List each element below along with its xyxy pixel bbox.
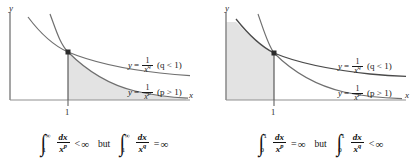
dx-denominator: xp [59,143,67,154]
dx-numerator: dx [353,133,362,142]
curve-label-q-left: y = 1 xq (q < 1) [128,57,182,74]
figure-container: y x 1 y = 1 xq (q < 1) y = 1 xp (p > 1) [0,0,420,163]
curve-label-q-eq-right: = [344,62,349,71]
curve-label-q-condition-right: (q < 1) [367,62,392,71]
integral-right-first: ∫ 1 0 [258,133,268,154]
dx-exponent: p [64,142,67,149]
integral-upper-limit: ∞ [46,133,51,140]
intersection-marker-left [66,50,71,55]
equation-row: ∫ ∞ 1 dx xp < ∞ but ∫ ∞ 1 [0,124,420,163]
dx-fraction-left-first: dx xp [57,133,70,154]
infinity-right-first: ∞ [298,138,306,150]
relation-left-first: < [75,138,81,149]
dx-fraction-right-first: dx xp [273,133,286,154]
dx-fraction-left-second: dx xq [136,133,149,154]
equation-left: ∫ ∞ 1 dx xp < ∞ but ∫ ∞ 1 [40,124,168,163]
integral-left-second: ∫ ∞ 1 [119,133,131,154]
equation-right: ∫ 1 0 dx xp = ∞ but ∫ 1 0 [258,124,383,163]
curve-label-q-condition-left: (q < 1) [157,61,182,70]
curve-label-p-fraction-right: 1 xp [352,85,363,102]
curve-label-p-eq-left: = [134,88,139,97]
curve-label-p-denominator-left: xp [143,93,152,101]
dx-numerator: dx [138,133,147,142]
curve-label-p-left: y = 1 xp (p > 1) [128,84,182,101]
dx-numerator: dx [59,133,68,142]
x-tick-label-one-left: 1 [65,108,69,117]
dx-denominator: xq [138,143,146,154]
x-axis-label-left: x [189,91,193,100]
relation-left-second: = [154,138,160,149]
curve-label-q-exponent-left: q [148,62,151,69]
curve-label-q-right: y = 1 xq (q < 1) [338,58,392,75]
curve-label-q-exponent-right: q [358,63,361,70]
infinity-right-second: ∞ [375,138,383,150]
infinity-left-first: ∞ [81,138,89,150]
curve-label-p-eq-right: = [344,89,349,98]
curve-label-p-exponent-left: p [148,89,151,96]
curve-label-q-denominator-left: xq [143,66,152,74]
curve-label-p-y-left: y [128,88,132,97]
dx-numerator: dx [275,133,284,142]
curve-label-q-fraction-right: 1 xq [352,58,363,75]
relation-right-first: = [291,138,297,149]
dx-exponent: q [143,142,146,149]
x-axis-label-right: x [405,91,409,100]
curve-label-q-eq-left: = [134,61,139,70]
curve-label-q-y-left: y [128,61,132,70]
conjunction-right: but [315,139,327,149]
y-axis-label-right: y [225,4,229,13]
integral-sign: ∫ [41,135,46,152]
curve-label-p-exponent-right: p [358,90,361,97]
shaded-region-right [226,22,274,100]
x-tick-label-one-right: 1 [271,108,275,117]
curve-label-p-y-right: y [338,89,342,98]
intersection-marker-right [272,51,277,56]
infinity-left-second: ∞ [160,138,168,150]
curve-label-p-condition-left: (p > 1) [157,88,182,97]
dx-denominator: xq [353,143,361,154]
integral-right-second: ∫ 1 0 [336,133,346,154]
dx-fraction-right-second: dx xq [351,133,364,154]
conjunction-left: but [98,139,110,149]
curve-label-p-condition-right: (p > 1) [367,89,392,98]
curve-label-q-y-right: y [338,62,342,71]
curve-label-p-fraction-left: 1 xp [142,84,153,101]
curve-label-q-denominator-right: xq [353,67,362,75]
integral-sign: ∫ [259,135,264,152]
integral-upper-limit: ∞ [125,133,130,140]
relation-right-second: < [369,138,375,149]
y-axis-label-left: y [9,4,13,13]
curve-label-p-right: y = 1 xp (p > 1) [338,85,392,102]
dx-denominator: xp [276,143,284,154]
integral-sign: ∫ [120,135,125,152]
integral-sign: ∫ [336,135,341,152]
curve-label-p-denominator-right: xp [353,94,362,102]
dx-exponent: p [280,142,283,149]
curve-label-q-fraction-left: 1 xq [142,57,153,74]
integral-left-first: ∫ ∞ 1 [40,133,52,154]
dx-exponent: q [358,142,361,149]
